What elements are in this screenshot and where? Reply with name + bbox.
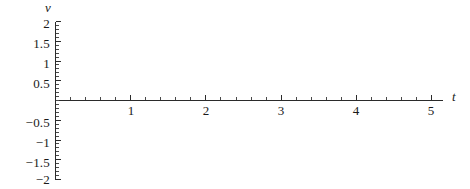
- plot-figure: v t 2 1.5 1 0.5 −0.5 −1 −1.5 −2 1 2 3 4 …: [0, 0, 470, 189]
- y-tick-label-m1.5: −1.5: [2, 156, 50, 169]
- y-tick-label-m1: −1: [2, 136, 50, 149]
- y-tick-label-m0.5: −0.5: [2, 116, 50, 129]
- y-tick-label-1.5: 1.5: [2, 37, 50, 50]
- plot-area: [56, 22, 443, 180]
- y-tick-label-0.5: 0.5: [2, 77, 50, 90]
- y-tick-label-2: 2: [2, 17, 50, 30]
- y-tick-label-1: 1: [2, 57, 50, 70]
- x-axis-label: t: [452, 90, 456, 103]
- y-tick-label-m2: −2: [2, 173, 50, 186]
- y-axis-tick-labels: 2 1.5 1 0.5 −0.5 −1 −1.5 −2: [0, 0, 50, 189]
